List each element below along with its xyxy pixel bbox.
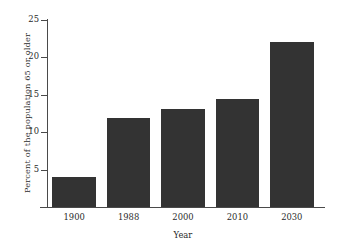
bar-chart-figure: Percent of the population 65 or older 51… xyxy=(0,0,338,252)
bar xyxy=(161,109,205,207)
plot-area xyxy=(47,20,319,207)
bar xyxy=(270,42,314,207)
x-axis-tick-label: 2030 xyxy=(265,211,319,223)
x-axis-tick-label: 2000 xyxy=(156,211,210,223)
y-axis-title: Percent of the population 65 or older xyxy=(20,18,34,208)
bar xyxy=(216,99,260,207)
y-axis-tick-label: 10 xyxy=(28,126,39,137)
x-axis-tick-label: 1900 xyxy=(47,211,101,223)
bar xyxy=(52,177,96,207)
y-axis-tick-label: 20 xyxy=(28,51,39,62)
bar xyxy=(107,118,151,207)
y-axis-tick-label: 5 xyxy=(34,164,39,175)
y-axis-tick-label: 15 xyxy=(28,89,39,100)
x-axis-title: Year xyxy=(47,229,319,241)
x-axis-line xyxy=(40,207,325,208)
x-axis-tick-label: 2010 xyxy=(210,211,264,223)
y-axis-tick-label: 25 xyxy=(28,14,39,25)
x-axis-tick-label: 1988 xyxy=(101,211,155,223)
